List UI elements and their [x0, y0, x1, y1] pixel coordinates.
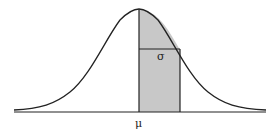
mean-label: μ: [135, 117, 142, 130]
sigma-label: σ: [157, 50, 165, 63]
normal-distribution-diagram: σ μ: [0, 0, 279, 135]
